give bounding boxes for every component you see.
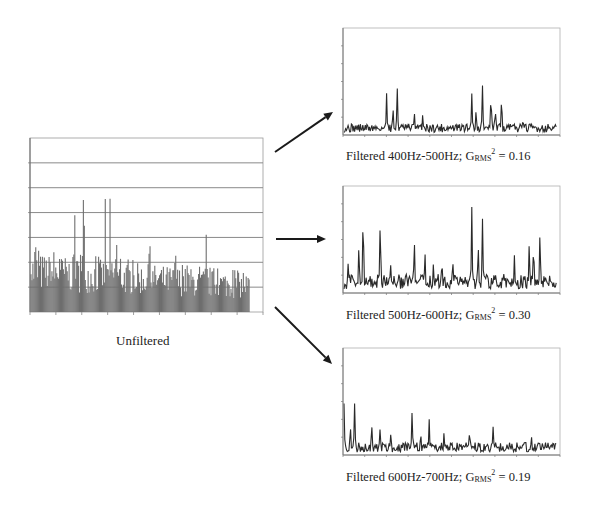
arrow-to-400-500: [275, 112, 333, 152]
band-600-700-chart: [338, 342, 566, 460]
band-500-600-caption: Filtered 500Hz-600Hz; GRMS2 = 0.30: [346, 307, 531, 323]
unfiltered-plot: [22, 130, 270, 320]
band-400-500-chart: [338, 22, 566, 140]
unfiltered-caption: Unfiltered: [116, 333, 169, 349]
band-500-600-plot: [338, 180, 566, 298]
arrow-to-500-600: [276, 235, 326, 243]
band-400-500-caption: Filtered 400Hz-500Hz; GRMS2 = 0.16: [346, 148, 531, 164]
band-500-600-chart: [338, 180, 566, 298]
band-600-700-caption: Filtered 600Hz-700Hz; GRMS2 = 0.19: [346, 469, 531, 485]
band-400-500-plot: [338, 22, 566, 140]
band-600-700-plot: [338, 342, 566, 460]
unfiltered-chart: [22, 130, 270, 320]
arrow-to-600-700: [275, 307, 332, 364]
